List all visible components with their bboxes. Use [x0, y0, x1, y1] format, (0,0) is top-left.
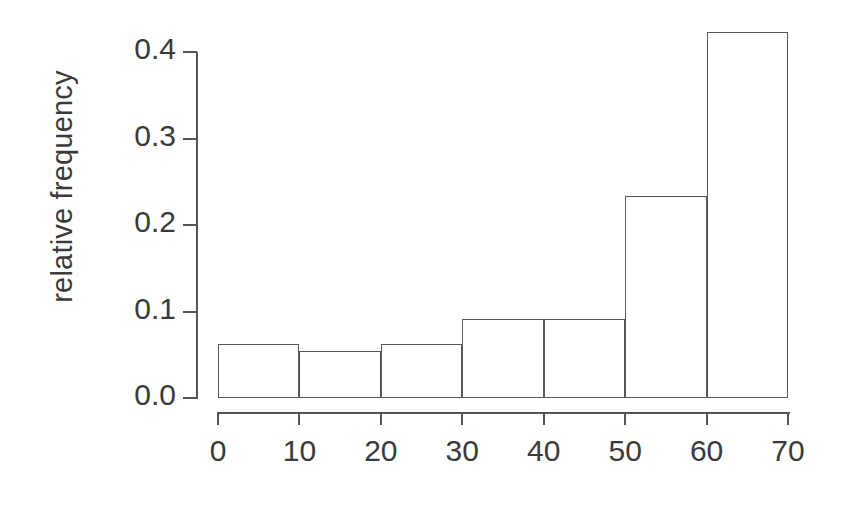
- x-tick-label: 70: [753, 434, 823, 468]
- histogram-figure: relative frequency 0.00.10.20.30.4 01020…: [0, 0, 850, 527]
- x-tick-label: 20: [346, 434, 416, 468]
- histogram-bar: [544, 319, 625, 398]
- x-tick: [298, 412, 300, 425]
- x-tick-label: 0: [183, 434, 253, 468]
- histogram-bar: [218, 344, 299, 398]
- x-tick-label: 60: [672, 434, 742, 468]
- x-tick-label: 50: [590, 434, 660, 468]
- histogram-bar: [299, 351, 380, 398]
- x-axis-line: [218, 412, 790, 414]
- x-tick: [380, 412, 382, 425]
- histogram-bar-group: [0, 0, 850, 420]
- x-tick: [543, 412, 545, 425]
- histogram-bar: [625, 196, 706, 398]
- x-tick: [706, 412, 708, 425]
- histogram-bar: [381, 344, 462, 398]
- x-tick-label: 40: [509, 434, 579, 468]
- x-tick: [461, 412, 463, 425]
- x-tick: [787, 412, 789, 425]
- x-tick: [217, 412, 219, 425]
- x-tick: [624, 412, 626, 425]
- x-tick-label: 30: [427, 434, 497, 468]
- histogram-bar: [462, 319, 543, 398]
- x-tick-label: 10: [264, 434, 334, 468]
- histogram-bar: [707, 32, 788, 398]
